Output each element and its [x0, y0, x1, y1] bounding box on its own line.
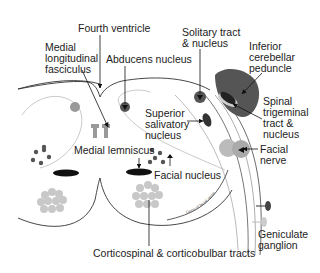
facial-nucleus-marker-icon	[167, 154, 173, 158]
brainstem-pons-cross-section-diagram: Genu of facial nerve	[0, 0, 320, 273]
label-geniculate-2: ganglion	[258, 239, 298, 251]
geniculate-dark	[265, 201, 271, 211]
right-tegmentum-contour	[118, 90, 150, 100]
label-corticospinal: Corticospinal & corticobulbar tracts	[93, 247, 255, 259]
label-medial-lemniscus: Medial lemniscus	[74, 144, 155, 156]
label-abducens: Abducens nucleus	[106, 53, 192, 65]
label-sup-sal-3: nucleus	[145, 129, 181, 141]
label-facial-nerve-2: nerve	[260, 154, 286, 166]
geniculate-light	[261, 217, 267, 227]
label-spinal-trig-4: nucleus	[263, 128, 299, 140]
mlf-left	[91, 124, 99, 138]
label-fourth-ventricle: Fourth ventricle	[78, 22, 151, 34]
fourth-ventricle-floor-line	[18, 78, 210, 97]
left-corticospinal-tract	[37, 188, 67, 213]
right-medial-lemniscus	[126, 169, 152, 176]
mlf-right	[102, 124, 110, 138]
left-medial-lemniscus	[53, 170, 79, 177]
label-icp-3: peduncle	[249, 62, 292, 74]
label-solitary-2: & nucleus	[182, 37, 228, 49]
label-facial-nucleus: Facial nucleus	[154, 169, 221, 181]
left-facial-nucleus-dots	[31, 145, 51, 165]
label-mlf-3: fasciculus	[45, 63, 91, 75]
left-abducens-nucleus	[70, 102, 80, 112]
leader-mlf	[82, 70, 108, 127]
right-corticospinal-tract	[132, 181, 163, 208]
superior-salivatory-nucleus	[201, 112, 213, 128]
